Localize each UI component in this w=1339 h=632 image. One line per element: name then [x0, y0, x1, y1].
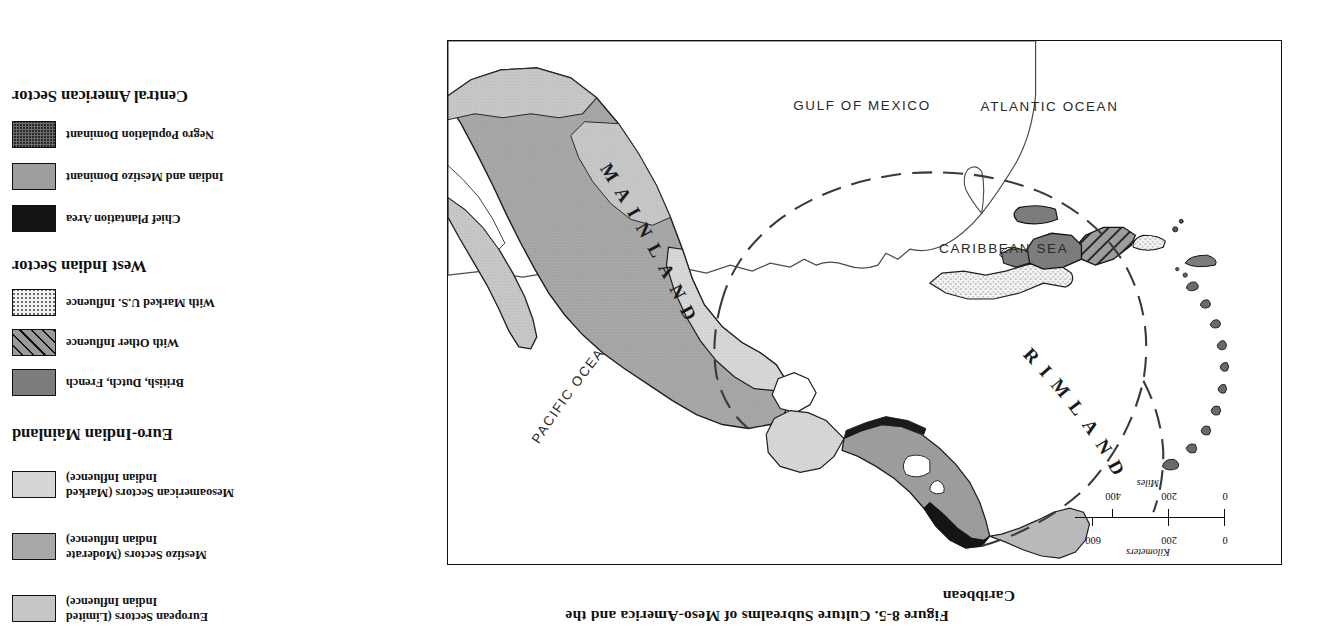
figure-title-line-2: Caribbean: [437, 586, 1077, 606]
legend-swatch-other-influence: [12, 329, 56, 356]
legend-label-mestizo-line1: Mestizo Sectors (Moderate: [66, 547, 207, 562]
legend-label-mesoamerican-line1: Mesoamerican Sectors (Marked: [66, 485, 234, 500]
scale-km-600: 600: [1085, 535, 1101, 546]
scale-tick: [1168, 509, 1169, 518]
scale-kilometer-labels: 0 200 600: [1053, 534, 1243, 546]
figure-title-line-1: Figure 8-5. Culture Subrealms of Meso-Am…: [437, 606, 1077, 626]
central-america-isthmus: [842, 425, 990, 549]
legend-label-chief-plantation: Chief Plantation Area: [56, 211, 181, 226]
legend-item-mesoamerican-sectors: Mesoamerican Sectors (Marked Indian Infl…: [12, 469, 234, 500]
jamaica-island: [1014, 206, 1057, 224]
scale-mi-200: 200: [1161, 491, 1177, 502]
legend-swatch-mestizo-sectors: [12, 533, 56, 560]
legend-heading-euro-indian-mainland: Euro-Indian Mainland: [12, 424, 173, 444]
legend-item-european-sectors: European Sectors (Limited Indian Influen…: [12, 593, 208, 624]
scale-km-0: 0: [1222, 535, 1227, 546]
scale-mi-0: 0: [1222, 491, 1227, 502]
scale-tick: [1092, 517, 1093, 526]
legend-item-mestizo-sectors: Mestizo Sectors (Moderate Indian Influen…: [12, 531, 207, 562]
legend-swatch-us-influence: [12, 289, 56, 316]
scale-tick: [1168, 517, 1169, 526]
legend-swatch-indian-mestizo: [12, 163, 56, 190]
haiti-hatched-sector: [1075, 227, 1135, 265]
legend-label-european-line1: European Sectors (Limited: [66, 609, 208, 624]
caribbean-sea-label: CARIBBEAN SEA: [939, 241, 1068, 256]
legend-label-us-influence: With Marked U.S. Influence: [56, 295, 215, 310]
legend-label-european-sectors: European Sectors (Limited Indian Influen…: [56, 593, 208, 624]
legend-label-european-line2: Indian Influence): [66, 593, 208, 608]
gulf-of-mexico-label: GULF OF MEXICO: [793, 98, 930, 113]
trinidad-island: [1162, 459, 1178, 470]
legend-item-negro-population: Negro Population Dominant: [12, 121, 214, 148]
legend-label-mesoamerican-sectors: Mesoamerican Sectors (Marked Indian Infl…: [56, 469, 234, 500]
scale-mi-400: 400: [1105, 491, 1121, 502]
scale-tick: [1224, 517, 1225, 526]
scale-tick: [1112, 509, 1113, 518]
legend-heading-west-indian: West Indian Sector: [12, 256, 147, 276]
cayman-island-small: [1179, 219, 1183, 223]
western-island: [1185, 255, 1216, 267]
scale-line: [1075, 517, 1225, 518]
puerto-rico-island: [1133, 235, 1165, 250]
map-legend: Central American Sector Negro Population…: [4, 32, 434, 572]
legend-label-mesoamerican-line2: Indian Influence): [66, 469, 234, 484]
legend-swatch-negro-population: [12, 121, 56, 148]
legend-item-chief-plantation: Chief Plantation Area: [12, 205, 181, 232]
figure-page: Figure 8-5. Culture Subrealms of Meso-Am…: [0, 0, 1339, 632]
map-frame: MAINLAND RIMLAND CARIBBEAN SEA GULF OF M…: [447, 40, 1282, 565]
mesoamerican-enclave: [772, 373, 816, 413]
legend-item-us-influence: With Marked U.S. Influence: [12, 289, 215, 316]
legend-label-negro-population: Negro Population Dominant: [56, 127, 214, 142]
legend-heading-central-american: Central American Sector: [12, 86, 188, 106]
central-america-lake: [903, 455, 930, 477]
legend-item-british-dutch-french: British, Dutch, French: [12, 369, 184, 396]
scale-miles-caption: Miles: [1053, 478, 1243, 489]
legend-swatch-mesoamerican-sectors: [12, 471, 56, 498]
legend-label-mestizo-sectors: Mestizo Sectors (Moderate Indian Influen…: [56, 531, 207, 562]
yucatan-peninsula: [766, 411, 844, 473]
legend-item-other-influence: With Other Influence: [12, 329, 179, 356]
figure-title: Figure 8-5. Culture Subrealms of Meso-Am…: [437, 586, 1077, 626]
scale-km-200: 200: [1161, 535, 1177, 546]
rimland-label: RIMLAND: [1019, 344, 1133, 488]
scale-rule: [1075, 508, 1225, 528]
scale-mile-labels: 0 200 400: [1053, 490, 1243, 502]
legend-item-indian-mestizo: Indian and Mestizo Dominant: [12, 163, 224, 190]
legend-label-indian-mestizo: Indian and Mestizo Dominant: [56, 169, 224, 184]
lesser-antilles-arc: [1176, 267, 1229, 452]
legend-swatch-chief-plantation: [12, 205, 56, 232]
legend-label-british-dutch-french: British, Dutch, French: [56, 375, 184, 390]
legend-swatch-british-dutch-french: [12, 369, 56, 396]
legend-label-mestizo-line2: Indian Influence): [66, 531, 207, 546]
legend-swatch-european-sectors: [12, 595, 56, 622]
atlantic-ocean-label: ATLANTIC OCEAN: [981, 99, 1119, 114]
scale-tick: [1224, 509, 1225, 518]
scale-kilometers-caption: Kilometers: [1053, 547, 1243, 558]
map-scale-bar: Kilometers 0 200 600 0 200 400 Miles: [1053, 478, 1243, 558]
legend-label-other-influence: With Other Influence: [56, 335, 179, 350]
cayman-island: [1173, 227, 1178, 232]
